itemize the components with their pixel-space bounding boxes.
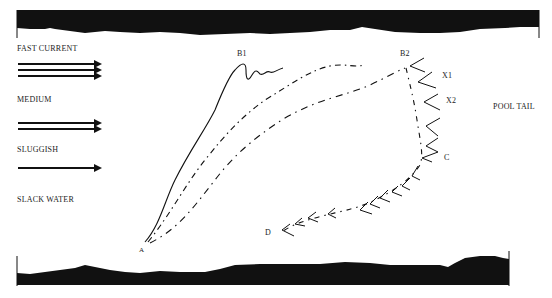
point-x2-label: X2 [446, 96, 456, 105]
legend-slack-label: SLACK WATER [17, 195, 74, 204]
fish-markers [282, 58, 440, 236]
legend-fast-label: FAST CURRENT [17, 44, 78, 53]
point-b2-label: B2 [400, 49, 410, 58]
path-a-b1 [145, 64, 283, 242]
fast-current-arrow [18, 60, 102, 80]
point-b1-label: B1 [237, 49, 247, 58]
pool-tail-label: POOL TAIL [493, 102, 535, 111]
legend-sluggish-label: SLUGGISH [17, 145, 58, 154]
medium-current-arrow [18, 119, 102, 133]
bottom-bank [17, 256, 509, 285]
top-bank [17, 10, 539, 35]
legend-medium-label: MEDIUM [17, 95, 52, 104]
sluggish-current-arrow [18, 164, 102, 172]
point-d-label: D [265, 228, 271, 237]
point-a-label: A [139, 246, 144, 254]
point-c-label: C [444, 153, 450, 162]
path-b2-c-d [282, 68, 422, 232]
diagram-canvas [0, 0, 552, 298]
point-x1-label: X1 [442, 71, 452, 80]
